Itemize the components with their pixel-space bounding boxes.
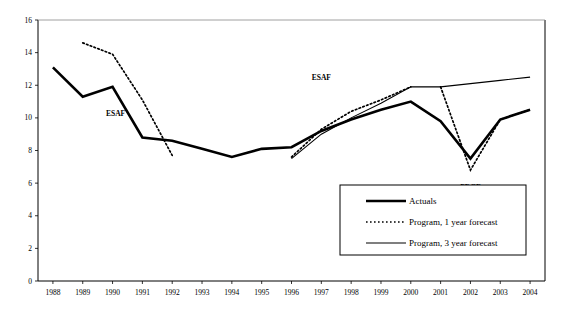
x-tick-label: 2001 (433, 288, 448, 297)
x-tick-label: 1994 (224, 288, 239, 297)
y-tick-label: 6 (28, 179, 32, 188)
x-tick-label: 1990 (105, 288, 120, 297)
x-tick-label: 2003 (493, 288, 508, 297)
y-tick-label: 4 (28, 211, 32, 220)
data-series (53, 43, 530, 170)
chart-container: 0246810121416 19881989199019911992199319… (0, 0, 568, 310)
y-axis-ticks: 0246810121416 (25, 16, 39, 286)
x-tick-label: 1996 (284, 288, 299, 297)
x-tick-label: 2004 (523, 288, 538, 297)
y-tick-label: 16 (25, 16, 33, 25)
x-tick-label: 2000 (403, 288, 418, 297)
legend-label-2: Program, 1 year forecast (409, 217, 498, 227)
annotation-label: ESAF (312, 73, 332, 82)
y-tick-label: 0 (28, 277, 32, 286)
line-chart: 0246810121416 19881989199019911992199319… (0, 0, 568, 310)
x-tick-label: 1993 (195, 288, 210, 297)
chart-legend: ActualsProgram, 1 year forecastProgram, … (340, 185, 526, 255)
x-tick-label: 1992 (165, 288, 180, 297)
y-tick-label: 12 (25, 81, 33, 90)
x-axis-ticks: 1988198919901991199219931994199519961997… (45, 281, 537, 297)
x-tick-label: 2002 (463, 288, 478, 297)
y-tick-label: 8 (28, 146, 32, 155)
x-tick-label: 1995 (254, 288, 269, 297)
x-tick-label: 1989 (75, 288, 90, 297)
x-tick-label: 1988 (45, 288, 60, 297)
legend-label-1: Actuals (409, 196, 437, 206)
series-line (441, 87, 530, 170)
x-tick-label: 1999 (373, 288, 388, 297)
series-line (292, 77, 531, 159)
chart-annotations: ESAFESAFPRGF (106, 73, 481, 191)
y-tick-label: 2 (28, 244, 32, 253)
y-tick-label: 14 (25, 48, 33, 57)
annotation-label: ESAF (106, 109, 126, 118)
x-tick-label: 1991 (135, 288, 150, 297)
series-line (292, 87, 411, 157)
legend-label-3: Program, 3 year forecast (409, 238, 498, 248)
x-tick-label: 1998 (344, 288, 359, 297)
y-tick-label: 10 (25, 113, 33, 122)
x-tick-label: 1997 (314, 288, 329, 297)
